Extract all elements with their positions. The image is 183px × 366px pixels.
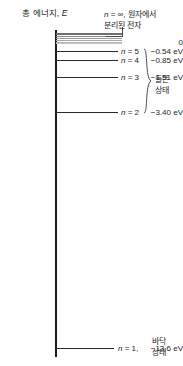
n-label-n5: n = 5 (121, 47, 139, 56)
n-value-n5: = 5 (125, 47, 139, 56)
excited-state-label-line2: 상태 (155, 85, 169, 96)
continuum-leader-horizontal (106, 36, 123, 37)
ground-state-label-line2: 상태 (152, 347, 166, 358)
n-value-n2: = 2 (125, 108, 139, 117)
level-line-n3 (56, 77, 118, 78)
n-label-n1: n = 1, (118, 344, 138, 353)
continuum-callout-line1: n = ∞, 원자에서 (104, 9, 156, 20)
n-value-n3: = 3 (125, 73, 139, 82)
level-line-n5 (56, 51, 118, 52)
axis-title-symbol: E (62, 8, 68, 18)
ground-state-label-line1: 바닥 (152, 336, 166, 347)
excited-state-label-line1: 들뜬 (155, 74, 169, 85)
excited-state-label: 들뜬 상태 (155, 74, 169, 96)
n-label-n3: n = 3 (121, 73, 139, 82)
vertical-energy-axis (55, 30, 57, 357)
axis-zero-label: 0 (131, 38, 183, 47)
level-line-n2 (56, 112, 118, 113)
excited-state-brace (143, 48, 152, 114)
axis-title: 총 에너지, E (22, 6, 68, 18)
n-label-n4: n = 4 (121, 56, 139, 65)
continuum-callout-line1-rest: = ∞, 원자에서 (108, 10, 155, 19)
continuum-callout-line2: 분리된 전자 (104, 20, 156, 31)
n-value-n4: = 4 (125, 56, 139, 65)
level-line-n4 (56, 60, 118, 61)
level-line-n1 (56, 348, 114, 349)
continuum-band (56, 33, 122, 44)
axis-title-text: 총 에너지, (22, 8, 62, 18)
ground-state-label: 바닥 상태 (152, 336, 166, 358)
n-value-n1: = 1, (122, 344, 138, 353)
n-label-n2: n = 2 (121, 108, 139, 117)
continuum-callout: n = ∞, 원자에서 분리된 전자 (104, 9, 156, 31)
energy-level-diagram: 총 에너지, E 0 n = ∞, 원자에서 분리된 전자 −0.54 eV n… (0, 0, 183, 366)
